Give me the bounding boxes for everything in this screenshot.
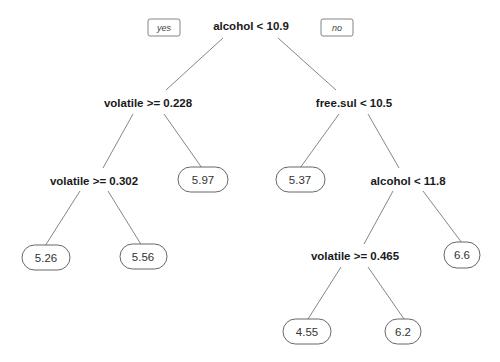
- svg-text:5.37: 5.37: [289, 174, 311, 186]
- svg-text:5.97: 5.97: [192, 174, 214, 186]
- svg-text:5.56: 5.56: [132, 251, 154, 263]
- edge-n3-l6: [300, 114, 339, 168]
- edge-n4-l8: [45, 191, 80, 246]
- edge-root-n2: [166, 38, 223, 90]
- split-node-volatile-0302: volatile >= 0.302: [50, 175, 138, 187]
- leaf-node-5-37: 5.37: [276, 167, 325, 192]
- branch-label-no: no: [321, 19, 353, 36]
- svg-text:4.55: 4.55: [296, 326, 318, 338]
- svg-text:6.6: 6.6: [454, 249, 470, 261]
- svg-text:5.26: 5.26: [35, 252, 57, 264]
- edge-n4-l9: [108, 191, 142, 246]
- edge-root-n3: [278, 38, 336, 90]
- edge-n14-l28: [308, 267, 341, 319]
- edge-n2-l5: [164, 114, 202, 168]
- edge-n7-l15: [423, 191, 462, 243]
- split-node-free-sul: free.sul < 10.5: [316, 97, 393, 109]
- split-node-alcohol-118: alcohol < 11.8: [370, 175, 446, 187]
- split-node-volatile-0228: volatile >= 0.228: [104, 97, 193, 109]
- edge-n14-l29: [368, 267, 404, 319]
- branch-label-yes: yes: [148, 19, 180, 36]
- leaf-node-5-26: 5.26: [22, 245, 70, 270]
- leaf-node-5-97: 5.97: [178, 167, 228, 192]
- svg-text:6.2: 6.2: [395, 326, 411, 338]
- decision-tree: yes no alcohol < 10.9 volatile >= 0.228 …: [0, 0, 500, 362]
- leaf-node-4-55: 4.55: [283, 319, 331, 344]
- edge-n7-n14: [364, 191, 393, 244]
- leaf-node-6-2: 6.2: [385, 319, 421, 344]
- no-label: no: [332, 23, 342, 33]
- leaf-node-5-56: 5.56: [120, 244, 167, 269]
- edge-n2-n4: [103, 114, 133, 168]
- split-node-volatile-0465: volatile >= 0.465: [311, 250, 400, 262]
- yes-label: yes: [156, 23, 172, 33]
- leaf-node-6-6: 6.6: [444, 242, 480, 268]
- edge-n3-n7: [368, 114, 399, 168]
- split-node-root: alcohol < 10.9: [213, 20, 289, 32]
